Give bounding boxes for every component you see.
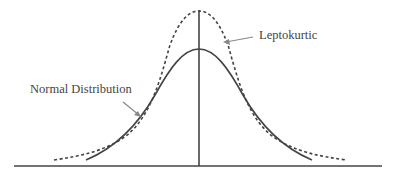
- kurtosis-diagram: Normal Distribution Leptokurtic: [0, 0, 399, 172]
- normal-label: Normal Distribution: [30, 82, 132, 97]
- leptokurtic-label: Leptokurtic: [259, 28, 317, 43]
- leptokurtic-arrowhead-icon: [223, 39, 230, 45]
- leptokurtic-arrow: [226, 37, 253, 42]
